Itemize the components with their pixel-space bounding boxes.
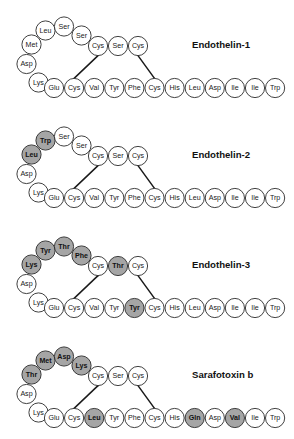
residue-label: Cys <box>148 194 161 202</box>
arc-residue-3: Ser <box>54 17 73 36</box>
residue-label: Leu <box>189 304 201 312</box>
residue-label: Tyr <box>109 414 119 422</box>
bottom-row-residue-8: Leu <box>185 298 204 317</box>
residue-label: Ser <box>112 372 124 380</box>
arc-residue-2: Met <box>36 351 55 370</box>
residue-label: Asp <box>20 390 32 398</box>
panel-title: Endothelin-3 <box>192 259 250 270</box>
residue-label: Asp <box>209 84 221 92</box>
top-row-residue-3: Cys <box>128 366 147 385</box>
bottom-row-residue-10: Ile <box>225 188 244 207</box>
residue-label: Trp <box>270 304 280 312</box>
residue-label: His <box>169 84 180 92</box>
residue-label: Tyr <box>109 194 119 202</box>
residue-label: Leu <box>189 84 201 92</box>
residue-label: Cys <box>68 304 81 312</box>
bottom-row: GluCysLeuTyrPheCysHisGlnAspValIleTrp <box>44 408 284 427</box>
residue-label: Lys <box>33 409 44 417</box>
disulfide-bond-1 <box>74 276 98 299</box>
residue-label: Thr <box>26 371 38 379</box>
top-row-residue-1: Cys <box>88 366 107 385</box>
arc-residue-asp: Asp <box>17 54 36 73</box>
bottom-row-residue-6: Cys <box>145 78 164 97</box>
residue-label: Phe <box>128 84 141 92</box>
residue-label: His <box>169 194 180 202</box>
bottom-row-residue-11: Ile <box>245 78 264 97</box>
disulfide-bond-2 <box>138 386 155 409</box>
bottom-row-residue-7: His <box>165 408 184 427</box>
panel-diagram: AspLysMetLeuSerSerCysSerCysGluCysValTyrP… <box>0 0 294 110</box>
arc-residue-asp: Asp <box>17 274 36 293</box>
residue-label: Ser <box>76 142 88 150</box>
panel-title: Endothelin-2 <box>192 149 250 160</box>
bottom-row-residue-2: Cys <box>65 78 84 97</box>
residue-label: Asp <box>209 414 221 422</box>
top-row-residue-3: Cys <box>128 146 147 165</box>
bottom-row-residue-9: Asp <box>205 298 224 317</box>
bottom-row-residue-10: Ile <box>225 298 244 317</box>
residue-label: Val <box>89 194 99 202</box>
residue-label: Phe <box>75 252 88 260</box>
panel-2: AspLysLeuTrpSerSerCysSerCysGluCysValTyrP… <box>0 110 294 220</box>
disulfide-bonds <box>74 166 154 189</box>
residue-label: Asp <box>20 280 32 288</box>
top-row-residue-2: Thr <box>108 256 127 275</box>
residue-label: Ser <box>112 42 124 50</box>
residue-label: His <box>169 414 180 422</box>
residue-label: Ile <box>251 414 259 422</box>
residue-label: Lys <box>76 362 88 370</box>
residue-label: Gln <box>189 414 201 422</box>
disulfide-bonds <box>74 276 154 299</box>
residue-label: Ile <box>231 194 239 202</box>
top-row-residue-2: Ser <box>108 146 127 165</box>
residue-label: Cys <box>68 84 81 92</box>
residue-label: Cys <box>132 42 145 50</box>
residue-label: Cys <box>68 414 81 422</box>
arc-residue-3: Asp <box>54 347 73 366</box>
panel-4: AspLysThrMetAspLysCysSerCysGluCysLeuTyrP… <box>0 330 294 439</box>
arc-residue-1: Thr <box>22 365 41 384</box>
residue-label: Phe <box>128 414 141 422</box>
residue-label: Cys <box>92 42 105 50</box>
residue-label: Cys <box>92 152 105 160</box>
bottom-row-residue-2: Cys <box>65 188 84 207</box>
bottom-row-residue-4: Tyr <box>105 408 124 427</box>
residue-label: Glu <box>48 84 59 92</box>
residue-label: Trp <box>270 194 280 202</box>
residue-label: Leu <box>189 194 201 202</box>
bottom-row-residue-4: Tyr <box>105 298 124 317</box>
bottom-row-residue-12: Trp <box>266 408 285 427</box>
residue-label: Cys <box>132 152 145 160</box>
residue-label: Tyr <box>40 247 51 255</box>
top-row-residue-3: Cys <box>128 256 147 275</box>
residue-label: Trp <box>40 137 52 145</box>
bottom-row-residue-10: Val <box>225 408 244 427</box>
top-row-residue-2: Ser <box>108 36 127 55</box>
bottom-row-residue-6: Cys <box>145 188 164 207</box>
arc-residue-asp: Asp <box>17 384 36 403</box>
bottom-row-residue-4: Tyr <box>105 78 124 97</box>
residue-label: Lys <box>33 79 44 87</box>
top-row: CysThrCys <box>88 256 147 275</box>
residue-label: His <box>169 304 180 312</box>
bottom-row-residue-3: Val <box>85 298 104 317</box>
bottom-row-residue-11: Ile <box>245 188 264 207</box>
top-row-residue-3: Cys <box>128 36 147 55</box>
panel-diagram: AspLysLeuTrpSerSerCysSerCysGluCysValTyrP… <box>0 110 294 220</box>
bottom-row-residue-2: Cys <box>65 298 84 317</box>
arc-residue-4: Lys <box>72 356 91 375</box>
arc-residue-3: Thr <box>54 237 73 256</box>
residue-label: Asp <box>209 304 221 312</box>
top-row-residue-1: Cys <box>88 146 107 165</box>
arc-residue-2: Leu <box>36 21 55 40</box>
bottom-row-residue-3: Val <box>85 188 104 207</box>
arc-residue-4: Ser <box>72 136 91 155</box>
panel-title: Sarafotoxin b <box>192 369 253 380</box>
panel-diagram: AspLysThrMetAspLysCysSerCysGluCysLeuTyrP… <box>0 330 294 439</box>
residue-label: Tyr <box>109 84 119 92</box>
residue-label: Glu <box>48 304 59 312</box>
disulfide-bond-1 <box>74 166 98 189</box>
arc-residue-asp: Asp <box>17 164 36 183</box>
panel-3: AspLysLysTyrThrPheCysThrCysGluCysValTyrT… <box>0 220 294 330</box>
bottom-row-residue-1: Glu <box>44 408 63 427</box>
